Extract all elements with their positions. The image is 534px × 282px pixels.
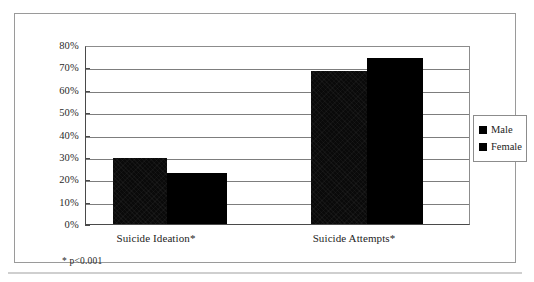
- y-tick-label-0: 0%: [27, 220, 79, 231]
- category-label-attempts: Suicide Attempts*: [283, 233, 425, 244]
- y-tick-label-70: 70%: [27, 63, 79, 74]
- footnote-significance: * p<0.001: [62, 257, 102, 267]
- legend-item-female[interactable]: Female: [479, 139, 522, 155]
- y-tick-label-80: 80%: [27, 41, 79, 52]
- legend-swatch-female-icon: [479, 143, 487, 151]
- y-tick-label-60: 60%: [27, 86, 79, 97]
- legend-label-female: Female: [491, 142, 522, 153]
- plot-area: [85, 46, 470, 225]
- y-tick-label-40: 40%: [27, 130, 79, 141]
- scan-edge-artifact: [8, 272, 522, 274]
- y-tick-label-50: 50%: [27, 108, 79, 119]
- bar-ideation-female[interactable]: [167, 173, 227, 224]
- y-tick-mark-0: [85, 225, 90, 226]
- y-tick-label-30: 30%: [27, 153, 79, 164]
- bar-attempts-male[interactable]: [311, 71, 367, 224]
- y-tick-label-10: 10%: [27, 197, 79, 208]
- y-axis: 80% 70% 60% 50% 40% 30% 20% 10% 0%: [23, 46, 79, 225]
- y-tick-label-20: 20%: [27, 175, 79, 186]
- legend-label-male: Male: [491, 125, 513, 136]
- legend-item-male[interactable]: Male: [479, 122, 522, 138]
- legend: Male Female: [473, 115, 527, 162]
- category-label-ideation: Suicide Ideation*: [85, 233, 227, 244]
- bar-attempts-female[interactable]: [367, 58, 423, 224]
- bar-ideation-male[interactable]: [113, 158, 167, 224]
- figure-frame: 80% 70% 60% 50% 40% 30% 20% 10% 0% Suici…: [14, 13, 516, 263]
- legend-swatch-male-icon: [479, 126, 487, 134]
